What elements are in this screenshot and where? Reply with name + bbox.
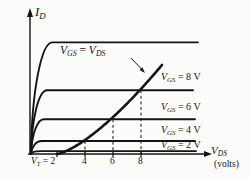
y-axis-arrowhead <box>27 8 33 17</box>
x-tick-label-8: 8 <box>138 157 143 167</box>
x-tick-label-6: 6 <box>110 157 115 167</box>
locus-label: VGS = VDS <box>60 45 105 58</box>
x-axis-label: VDS <box>211 145 227 158</box>
curve-label-vgs-2: VGS = 2 V <box>161 140 201 152</box>
curve-label-vgs-6: VGS = 6 V <box>161 102 201 114</box>
x-axis-unit-label: (volts) <box>214 160 239 170</box>
x-tick-label-4: 4 <box>82 157 87 167</box>
curve-label-vgs-8: VGS = 8 V <box>161 72 201 84</box>
locus-pointer-line <box>131 58 142 69</box>
mosfet-output-characteristics-figure: ID VGS = VDS VGS = 8 V VGS = 6 V VGS = 4… <box>0 0 250 180</box>
curve-vgs-top-unlabeled <box>31 42 198 154</box>
x-tick-label-vt-2: VT = 2 <box>31 157 55 167</box>
y-axis-label: ID <box>35 5 46 20</box>
curve-label-vgs-4: VGS = 4 V <box>161 125 201 137</box>
